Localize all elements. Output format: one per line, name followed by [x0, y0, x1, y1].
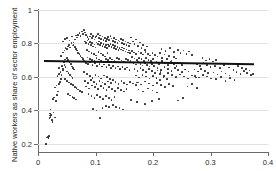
scatter-point: [154, 54, 156, 56]
scatter-point: [156, 92, 158, 94]
scatter-point: [96, 110, 98, 112]
scatter-point: [146, 46, 148, 48]
scatter-point: [151, 70, 153, 72]
scatter-point: [252, 73, 254, 75]
scatter-point: [58, 73, 60, 75]
scatter-point: [129, 69, 131, 71]
scatter-point: [152, 52, 154, 54]
scatter-point: [136, 82, 138, 84]
x-tick: [153, 152, 154, 156]
scatter-point: [69, 95, 71, 97]
scatter-point: [88, 51, 90, 53]
scatter-point: [138, 89, 140, 91]
scatter-point: [100, 78, 102, 80]
x-axis-title: Immigrant workers as share of sector emp…: [38, 169, 268, 171]
scatter-point: [210, 78, 212, 80]
scatter-point: [134, 68, 136, 70]
scatter-point: [92, 64, 94, 66]
scatter-point: [95, 55, 97, 57]
scatter-point: [58, 67, 60, 69]
scatter-point: [142, 65, 144, 67]
scatter-point: [122, 50, 124, 52]
scatter-point: [173, 51, 175, 53]
scatter-point: [121, 80, 123, 82]
scatter-point: [60, 71, 62, 73]
scatter-point: [94, 62, 96, 64]
scatter-point: [120, 89, 122, 91]
scatter-point: [50, 114, 52, 116]
scatter-point: [144, 103, 146, 105]
scatter-point: [72, 77, 74, 79]
scatter-point: [108, 39, 110, 41]
scatter-point: [164, 54, 166, 56]
scatter-point: [217, 74, 219, 76]
scatter-point: [159, 79, 161, 81]
scatter-point: [237, 65, 239, 67]
x-tick-label: 0: [36, 158, 40, 167]
scatter-point: [115, 106, 117, 108]
scatter-point: [87, 63, 89, 65]
scatter-point: [57, 91, 59, 93]
scatter-point: [210, 66, 212, 68]
scatter-point: [132, 41, 134, 43]
scatter-point: [146, 64, 148, 66]
scatter-point: [138, 77, 140, 79]
scatter-point: [181, 71, 183, 73]
x-tick-label: 0.4: [263, 158, 273, 167]
scatter-point: [194, 75, 196, 77]
scatter-point: [183, 76, 185, 78]
scatter-point: [240, 73, 242, 75]
scatter-point: [71, 42, 73, 44]
scatter-point: [138, 82, 140, 84]
scatter-point: [122, 39, 124, 41]
scatter-point: [200, 68, 202, 70]
scatter-point: [92, 108, 94, 110]
scatter-point: [147, 88, 149, 90]
scatter-point: [115, 67, 117, 69]
scatter-point: [199, 65, 201, 67]
scatter-point: [177, 100, 179, 102]
y-tick-label: 0.6: [22, 72, 32, 81]
scatter-point: [188, 71, 190, 73]
scatter-point: [126, 84, 128, 86]
scatter-point: [241, 67, 243, 69]
scatter-point: [99, 96, 101, 98]
scatter-point: [96, 65, 98, 67]
scatter-point: [220, 76, 222, 78]
scatter-point: [148, 68, 150, 70]
scatter-point: [191, 54, 193, 56]
scatter-point: [123, 43, 125, 45]
scatter-point: [57, 75, 59, 77]
scatter-point: [128, 45, 130, 47]
scatter-point: [213, 72, 215, 74]
scatter-point: [52, 98, 54, 100]
scatter-point: [160, 84, 162, 86]
scatter-point: [62, 70, 64, 72]
scatter-point: [83, 29, 85, 31]
scatter-point: [112, 104, 114, 106]
scatter-point: [206, 64, 208, 66]
scatter-point: [66, 37, 68, 39]
scatter-point: [54, 117, 56, 119]
scatter-point: [149, 78, 151, 80]
scatter-point: [154, 72, 156, 74]
scatter-point: [79, 32, 81, 34]
scatter-point: [145, 57, 147, 59]
scatter-point: [229, 77, 231, 79]
scatter-point: [123, 91, 125, 93]
scatter-point: [85, 42, 87, 44]
y-tick-label: 1: [28, 6, 32, 15]
scatter-point: [177, 49, 179, 51]
scatter-point: [88, 93, 90, 95]
scatter-point: [92, 77, 94, 79]
scatter-point: [100, 85, 102, 87]
scatter-point: [55, 100, 57, 102]
scatter-point: [135, 64, 137, 66]
scatter-point: [108, 106, 110, 108]
scatter-point: [184, 69, 186, 71]
scatter-point: [88, 38, 90, 40]
scatter-point: [140, 67, 142, 69]
scatter-point: [195, 77, 197, 79]
scatter-point: [167, 68, 169, 70]
scatter-point: [106, 47, 108, 49]
